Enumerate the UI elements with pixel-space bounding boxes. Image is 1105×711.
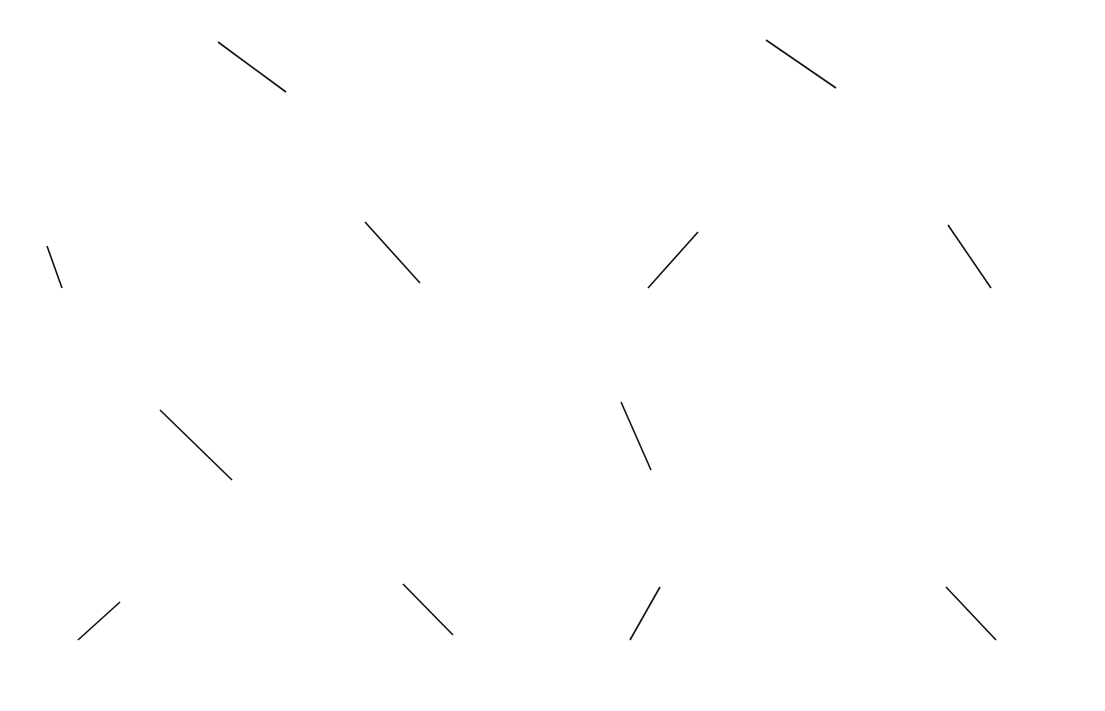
pie-chart-b xyxy=(548,0,1100,355)
panel-title-c xyxy=(393,370,402,388)
panel-c xyxy=(0,352,552,707)
panel-b xyxy=(548,0,1100,355)
leader-line-indifferent xyxy=(160,410,232,480)
leader-line-diurnal xyxy=(946,587,996,640)
leader-line-nocturnal xyxy=(648,232,698,288)
pie-chart-c xyxy=(0,352,552,707)
leader-line-indifferent xyxy=(621,402,651,470)
leader-line-nocturnal xyxy=(47,246,62,288)
panel-title-a xyxy=(393,13,402,31)
leader-line-indifferent xyxy=(218,42,286,92)
pie-chart-a xyxy=(0,0,552,355)
leader-line-nocturnal xyxy=(630,587,660,640)
leader-line-diurnal xyxy=(365,222,420,283)
leader-line-indifferent xyxy=(766,40,836,88)
leader-line-diurnal xyxy=(403,584,453,635)
panel-title-d xyxy=(903,370,912,388)
leader-line-diurnal xyxy=(948,225,991,288)
figure-four-pie-charts xyxy=(0,0,1105,711)
leader-line-nocturnal xyxy=(78,602,120,640)
panel-a xyxy=(0,0,552,355)
panel-title-b xyxy=(903,13,912,31)
panel-d xyxy=(548,352,1100,707)
pie-chart-d xyxy=(548,352,1100,707)
